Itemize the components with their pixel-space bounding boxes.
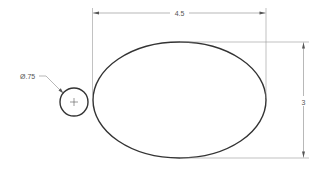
small-circle-group [60, 88, 88, 116]
arrowhead-right-icon [260, 12, 266, 15]
height-dimension-label: 3 [302, 99, 306, 106]
arrowhead-left-icon [93, 12, 99, 15]
width-dimension: 4.5 [93, 8, 267, 98]
height-dimension: 3 [180, 42, 309, 158]
width-dimension-label: 4.5 [175, 10, 185, 17]
arrowhead-top-icon [302, 43, 305, 49]
leader-line [39, 76, 62, 92]
arrowhead-bottom-icon [302, 152, 305, 158]
technical-drawing: 4.5 3 Ø.75 [0, 0, 320, 169]
diameter-callout: Ø.75 [20, 73, 64, 94]
diameter-label: Ø.75 [20, 73, 35, 80]
ellipse-shape [93, 42, 266, 158]
